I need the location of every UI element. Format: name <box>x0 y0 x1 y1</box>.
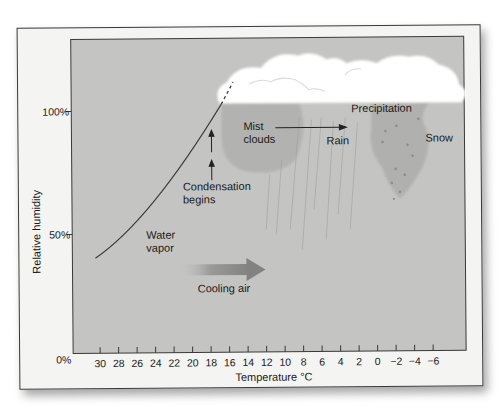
svg-text:−2: −2 <box>390 355 402 367</box>
svg-text:12: 12 <box>261 356 273 368</box>
label-begins: begins <box>183 193 216 205</box>
y-tick-50: 50% <box>49 228 70 240</box>
label-snow: Snow <box>425 131 453 143</box>
svg-text:−6: −6 <box>427 355 439 367</box>
x-tick-labels: 30 28 26 24 22 20 18 16 14 12 10 8 6 4 2… <box>94 355 439 370</box>
label-condensation: Condensation <box>183 180 251 193</box>
x-axis-label: Temperature °C <box>235 371 312 384</box>
svg-text:16: 16 <box>224 356 236 368</box>
label-mist: Mist <box>243 120 263 132</box>
svg-text:8: 8 <box>301 356 307 368</box>
svg-text:10: 10 <box>279 356 291 368</box>
label-water: Water <box>146 229 175 241</box>
y-axis-label: Relative humidity <box>30 189 43 273</box>
svg-text:22: 22 <box>168 357 180 369</box>
svg-text:4: 4 <box>338 355 344 367</box>
diagram-svg: 100% 50% 0% Relative humidity 30 28 26 2… <box>0 0 500 415</box>
svg-text:6: 6 <box>319 355 325 367</box>
label-cooling-air: Cooling air <box>198 282 251 294</box>
svg-text:18: 18 <box>205 356 217 368</box>
svg-text:2: 2 <box>356 355 362 367</box>
svg-text:20: 20 <box>187 356 199 368</box>
svg-text:28: 28 <box>113 357 125 369</box>
label-precipitation: Precipitation <box>351 102 412 114</box>
svg-text:14: 14 <box>242 356 254 368</box>
label-clouds: clouds <box>243 133 275 145</box>
y-tick-100: 100% <box>42 105 69 117</box>
svg-text:0: 0 <box>375 355 381 367</box>
label-vapor: vapor <box>146 242 174 254</box>
svg-text:30: 30 <box>94 357 106 369</box>
svg-text:26: 26 <box>131 357 143 369</box>
svg-text:24: 24 <box>150 357 162 369</box>
y-tick-0: 0% <box>56 353 71 365</box>
svg-text:−4: −4 <box>409 355 421 367</box>
label-rain: Rain <box>326 134 349 146</box>
